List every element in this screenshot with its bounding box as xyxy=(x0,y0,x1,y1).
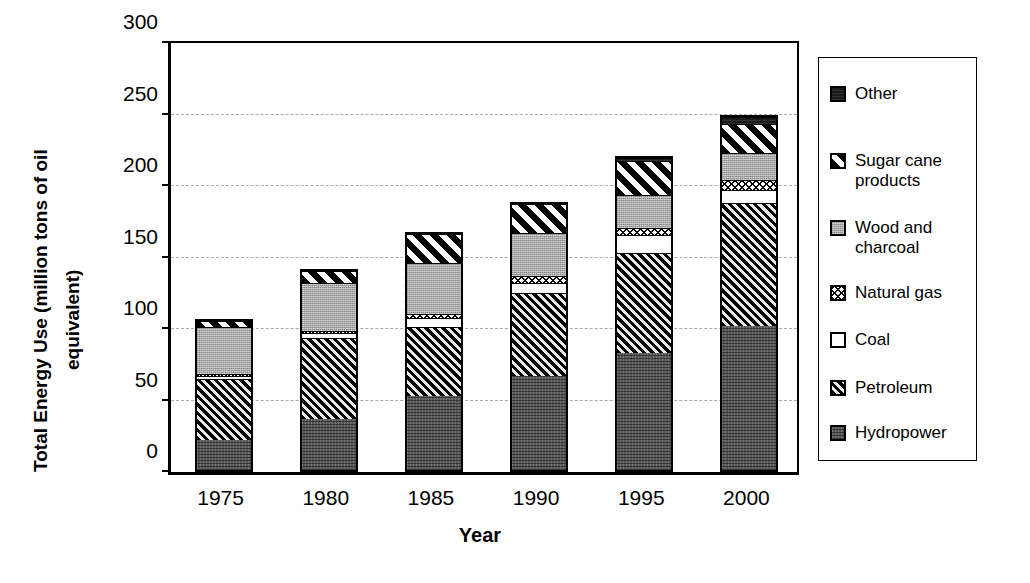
legend-item-coal[interactable]: Coal xyxy=(830,330,890,350)
bar-1990[interactable] xyxy=(510,202,568,472)
bar-segment-1995-hydropower xyxy=(617,353,671,470)
legend-swatch-wood-and-charcoal-icon xyxy=(830,220,846,236)
bar-segment-2000-other xyxy=(722,117,776,124)
bar-segment-1990-wood-and-charcoal xyxy=(512,233,566,276)
x-tick-label-1995: 1995 xyxy=(596,486,686,510)
y-tick-mark-100 xyxy=(162,327,171,329)
bar-segment-1990-hydropower xyxy=(512,376,566,470)
gridline-50 xyxy=(171,400,797,401)
x-tick-label-1980: 1980 xyxy=(281,486,371,510)
bar-segment-1995-sugar-cane-products xyxy=(617,161,671,195)
bar-segment-1980-hydropower xyxy=(302,419,356,470)
bar-segment-1985-hydropower xyxy=(407,396,461,470)
bar-segment-1995-petroleum xyxy=(617,253,671,353)
bar-segment-1990-coal xyxy=(512,283,566,293)
legend-label: Coal xyxy=(855,330,890,350)
bar-segment-1980-coal xyxy=(302,333,356,339)
bar-segment-1995-natural-gas xyxy=(617,228,671,235)
x-tick-label-2000: 2000 xyxy=(701,486,791,510)
y-tick-mark-0 xyxy=(162,470,171,472)
bar-segment-1990-petroleum xyxy=(512,293,566,376)
legend-item-hydropower[interactable]: Hydropower xyxy=(830,423,947,443)
y-tick-mark-300 xyxy=(162,41,171,43)
y-axis-title-line-2: equivalent) xyxy=(62,270,84,370)
y-tick-mark-50 xyxy=(162,399,171,401)
bar-1985[interactable] xyxy=(405,232,463,472)
legend-label: Other xyxy=(855,84,898,104)
bar-segment-1980-wood-and-charcoal xyxy=(302,283,356,332)
bar-segment-1980-petroleum xyxy=(302,338,356,418)
y-tick-label-250: 250 xyxy=(98,82,158,106)
legend: OtherSugar cane productsWood and charcoa… xyxy=(818,57,977,461)
y-tick-mark-200 xyxy=(162,184,171,186)
y-tick-mark-250 xyxy=(162,113,171,115)
legend-item-natural-gas[interactable]: Natural gas xyxy=(830,283,942,303)
bar-segment-1980-sugar-cane-products xyxy=(302,271,356,282)
bar-2000[interactable] xyxy=(720,115,778,472)
y-axis-title: Total Energy Use (million tons of oil eq… xyxy=(18,20,104,480)
bar-1995[interactable] xyxy=(615,156,673,472)
legend-item-wood-and-charcoal[interactable]: Wood and charcoal xyxy=(830,218,932,258)
y-axis-title-line-1: Total Energy Use (million tons of oil xyxy=(30,149,52,472)
bar-segment-1985-coal xyxy=(407,318,461,327)
legend-label: Petroleum xyxy=(855,378,932,398)
legend-label: Natural gas xyxy=(855,283,942,303)
bar-segment-1975-sugar-cane-products xyxy=(197,321,251,327)
bar-segment-1995-coal xyxy=(617,235,671,252)
bar-segment-1975-coal xyxy=(197,376,251,379)
bar-segment-1975-petroleum xyxy=(197,379,251,440)
bar-1975[interactable] xyxy=(195,319,253,472)
bar-segment-1975-hydropower xyxy=(197,440,251,470)
x-tick-label-1985: 1985 xyxy=(386,486,476,510)
legend-item-petroleum[interactable]: Petroleum xyxy=(830,378,932,398)
legend-swatch-natural-gas-icon xyxy=(830,285,846,301)
x-axis-tick-labels: 197519801985199019952000 xyxy=(168,486,799,520)
legend-label: Sugar cane products xyxy=(855,151,942,191)
bar-segment-1995-other xyxy=(617,158,671,161)
y-tick-label-300: 300 xyxy=(98,10,158,34)
y-tick-label-150: 150 xyxy=(98,225,158,249)
bar-segment-2000-natural-gas xyxy=(722,180,776,190)
gridline-200 xyxy=(171,185,797,186)
bar-segment-1985-natural-gas xyxy=(407,314,461,318)
y-tick-label-200: 200 xyxy=(98,153,158,177)
bar-1980[interactable] xyxy=(300,269,358,472)
bar-segment-1985-petroleum xyxy=(407,327,461,396)
legend-swatch-petroleum-icon xyxy=(830,380,846,396)
bar-segment-1985-wood-and-charcoal xyxy=(407,263,461,314)
legend-item-sugar-cane-products[interactable]: Sugar cane products xyxy=(830,151,942,191)
gridline-250 xyxy=(171,114,797,115)
bar-segment-2000-wood-and-charcoal xyxy=(722,153,776,180)
x-tick-label-1990: 1990 xyxy=(491,486,581,510)
bar-segment-1975-wood-and-charcoal xyxy=(197,327,251,374)
plot-area xyxy=(168,41,799,475)
bar-segment-2000-coal xyxy=(722,190,776,203)
bar-segment-1980-natural-gas xyxy=(302,331,356,332)
bar-segment-1995-wood-and-charcoal xyxy=(617,195,671,228)
y-tick-label-0: 0 xyxy=(98,439,158,463)
y-tick-label-100: 100 xyxy=(98,296,158,320)
legend-swatch-sugar-cane-products-icon xyxy=(830,153,846,169)
bar-segment-2000-hydropower xyxy=(722,326,776,470)
gridline-100 xyxy=(171,328,797,329)
legend-label: Wood and charcoal xyxy=(855,218,932,258)
y-axis-tick-labels: 050100150200250300 xyxy=(96,41,158,475)
legend-swatch-other-icon xyxy=(830,86,846,102)
x-axis-title: Year xyxy=(0,524,960,547)
legend-item-other[interactable]: Other xyxy=(830,84,898,104)
legend-swatch-hydropower-icon xyxy=(830,425,846,441)
x-tick-label-1975: 1975 xyxy=(176,486,266,510)
bar-segment-2000-petroleum xyxy=(722,203,776,326)
y-tick-label-50: 50 xyxy=(98,368,158,392)
gridline-150 xyxy=(171,257,797,258)
bar-segment-1975-natural-gas xyxy=(197,374,251,375)
y-tick-mark-150 xyxy=(162,256,171,258)
bar-segment-1985-sugar-cane-products xyxy=(407,234,461,263)
bar-segment-1990-natural-gas xyxy=(512,276,566,283)
chart-figure: Total Energy Use (million tons of oil eq… xyxy=(0,0,1030,583)
legend-swatch-coal-icon xyxy=(830,332,846,348)
bar-segment-1990-sugar-cane-products xyxy=(512,204,566,233)
legend-label: Hydropower xyxy=(855,423,947,443)
bar-segment-2000-sugar-cane-products xyxy=(722,124,776,153)
